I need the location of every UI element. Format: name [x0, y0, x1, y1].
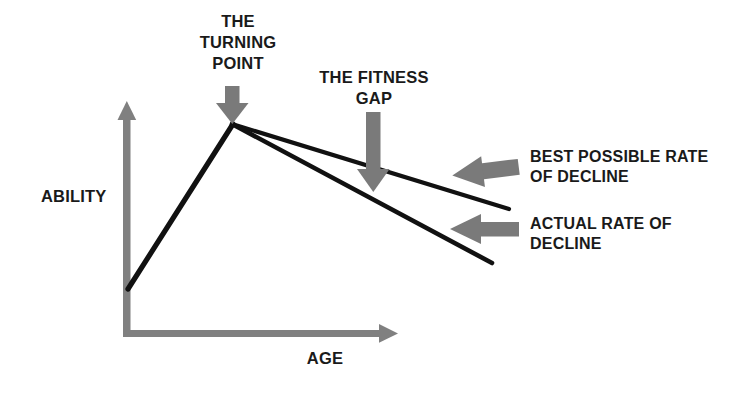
- annotation-label-turning-point: THE TURNING POINT: [200, 11, 277, 74]
- fitness-gap-down-arrow-icon: [357, 112, 390, 192]
- turning-point-down-arrow-icon: [216, 86, 249, 124]
- annotation-label-fitness-gap: THE FITNESS GAP: [319, 67, 428, 109]
- x-axis-label: AGE: [307, 348, 343, 369]
- ability-vs-age-diagram: [0, 0, 732, 394]
- annotation-label-actual-rate-of-decline: ACTUAL RATE OF DECLINE: [530, 214, 672, 254]
- annotation-label-best-possible-rate-of-decline: BEST POSSIBLE RATE OF DECLINE: [530, 147, 708, 187]
- x-axis: [123, 324, 398, 343]
- y-axis: [118, 101, 137, 337]
- y-axis-label: ABILITY: [41, 186, 107, 207]
- diagram-canvas: THE TURNING POINT THE FITNESS GAP BEST P…: [0, 0, 732, 394]
- actual-rate-left-arrow-icon: [450, 214, 519, 244]
- best-possible-left-arrow-icon: [450, 152, 520, 191]
- rise-line: [128, 124, 233, 289]
